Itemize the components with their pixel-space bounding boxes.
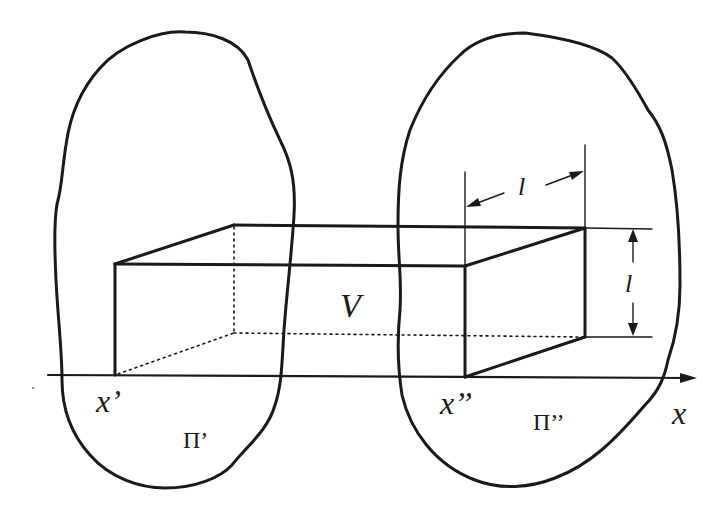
left-surface-outline [55,32,295,488]
width-arrowhead-right-icon [569,171,584,180]
x-axis-arrow-icon [680,373,697,383]
box-hidden-edge-depth [118,333,234,374]
height-extension-line-top [585,228,652,229]
box-front-top-edge [115,264,465,266]
box-bottom-right-depth-edge [465,337,585,377]
height-dimension-label: l [625,269,632,298]
surface-left-label: Π’ [183,427,208,453]
width-dimension-label: l [518,172,525,201]
x-prime-label: x’ [95,383,121,419]
diagram-canvas: l l V x’ x’’ Π’ Π’’ x [0,0,726,520]
stray-dot [32,387,34,389]
box-top-back-edge [234,225,585,228]
volume-label: V [340,287,365,324]
height-arrowhead-down-icon [628,323,638,336]
surface-right-label: Π’’ [533,409,565,435]
width-arrowhead-left-icon [466,198,481,207]
box-top-left-depth-edge [115,225,234,264]
x-axis-line [48,375,690,378]
x-double-prime-label: x’’ [439,385,472,421]
x-axis-label: x [671,395,686,431]
box-hidden-edge-bottom [234,333,582,337]
box-top-right-depth-edge [465,228,585,266]
height-arrowhead-up-icon [628,229,638,242]
